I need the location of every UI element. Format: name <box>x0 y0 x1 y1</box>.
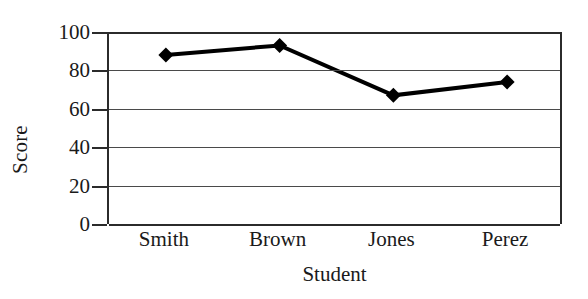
x-tick-label-brown: Brown <box>249 229 306 250</box>
y-axis-title: Score <box>0 0 40 299</box>
gridline-60 <box>109 109 560 110</box>
y-tick-mark-0 <box>92 224 107 226</box>
data-point-jones <box>386 88 401 103</box>
y-tick-mark-20 <box>92 186 107 188</box>
y-tick-label-20: 20 <box>38 175 90 196</box>
y-tick-mark-80 <box>92 70 107 72</box>
y-tick-mark-100 <box>92 32 107 34</box>
gridline-40 <box>109 147 560 148</box>
series-line-score <box>109 32 564 224</box>
y-tick-label-0: 0 <box>38 214 90 235</box>
gridline-80 <box>109 70 560 71</box>
x-tick-label-jones: Jones <box>368 229 415 250</box>
data-point-smith <box>158 48 173 63</box>
x-axis-title: Student <box>107 262 562 287</box>
y-tick-mark-60 <box>92 109 107 111</box>
y-axis-tick-labels: 020406080100 <box>38 0 90 299</box>
x-tick-label-smith: Smith <box>139 229 189 250</box>
gridline-20 <box>109 186 560 187</box>
line-chart: Score 020406080100 Student SmithBrownJon… <box>0 0 588 299</box>
data-point-perez <box>500 74 515 89</box>
y-tick-label-60: 60 <box>38 98 90 119</box>
y-tick-mark-40 <box>92 147 107 149</box>
y-tick-label-40: 40 <box>38 137 90 158</box>
y-tick-label-100: 100 <box>38 22 90 43</box>
gridline-0 <box>109 224 560 226</box>
y-tick-label-80: 80 <box>38 60 90 81</box>
gridline-100 <box>109 32 560 34</box>
data-point-brown <box>272 38 287 53</box>
plot-area <box>107 32 562 224</box>
x-tick-label-perez: Perez <box>482 229 529 250</box>
